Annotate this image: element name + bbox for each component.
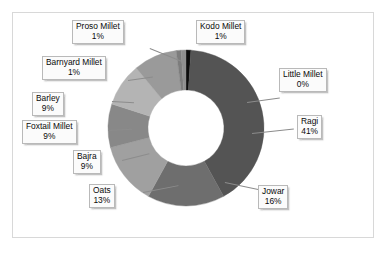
- callout-bajra: Bajra 9%: [73, 150, 101, 174]
- callout-value-barnyard-millet: 1%: [46, 68, 102, 78]
- callout-value-little-millet: 0%: [283, 80, 323, 90]
- pie-chart-plot-area: Proso Millet 1% Kodo Millet 1% Barnyard …: [0, 0, 388, 254]
- callout-kodo-millet: Kodo Millet 1%: [196, 20, 245, 44]
- callout-value-jowar: 16%: [262, 197, 284, 207]
- callout-value-ragi: 41%: [301, 127, 318, 137]
- callout-proso-millet: Proso Millet 1%: [72, 20, 124, 44]
- callout-barnyard-millet: Barnyard Millet 1%: [42, 56, 106, 80]
- callout-jowar: Jowar 16%: [258, 185, 288, 209]
- callout-oats: Oats 13%: [89, 184, 115, 208]
- callout-value-proso-millet: 1%: [76, 32, 120, 42]
- callout-foxtail-millet: Foxtail Millet 9%: [22, 120, 77, 144]
- callout-value-barley: 9%: [36, 104, 60, 114]
- callout-value-kodo-millet: 1%: [200, 32, 241, 42]
- callout-value-oats: 13%: [93, 196, 111, 206]
- callout-value-bajra: 9%: [77, 162, 97, 172]
- callout-barley: Barley 9%: [32, 92, 64, 116]
- callout-value-foxtail-millet: 9%: [26, 132, 73, 142]
- callout-ragi: Ragi 41%: [297, 115, 322, 139]
- callout-little-millet: Little Millet 0%: [279, 68, 327, 92]
